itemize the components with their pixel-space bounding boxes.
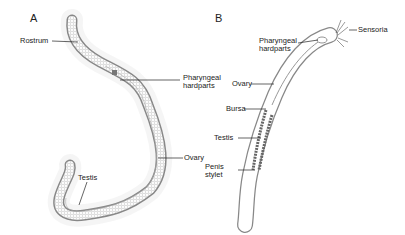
label-sensoria: Sensoria (358, 26, 388, 34)
worm-a (59, 20, 161, 216)
label-ovary-a: Ovary (184, 154, 204, 162)
label-penis-stylet: Penisstylet (205, 163, 224, 179)
label-testis-b: Testis (214, 134, 233, 142)
label-bursa: Bursa (226, 105, 246, 113)
label-rostrum: Rostrum (20, 37, 48, 45)
panel-label-a: A (30, 12, 37, 24)
panel-label-b: B (215, 12, 222, 24)
label-pharyngeal-a: Pharyngealhardparts (183, 74, 221, 90)
label-testis-a: Testis (78, 174, 97, 182)
pharyngeal-hardparts-a (112, 70, 117, 75)
label-pharyngeal-b: Pharyngealhardparts (259, 37, 297, 53)
label-ovary-b: Ovary (232, 80, 252, 88)
worm-diagram (0, 0, 405, 235)
